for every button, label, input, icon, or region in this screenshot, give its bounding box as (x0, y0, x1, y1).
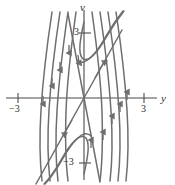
tick-label-v-positive-3: 3 (74, 26, 79, 37)
direction-arrow-group-left (43, 45, 79, 104)
tick-label-v-negative-3: −3 (63, 156, 74, 167)
horizontal-axis-label: y (161, 92, 166, 104)
tick-label-y-positive-3: 3 (141, 103, 146, 114)
direction-arrow-group-right (103, 92, 127, 140)
arrow-down-separatrix (78, 55, 79, 63)
phase-portrait-figure: v y 3 −3 −3 3 (0, 0, 175, 185)
trajectory-right-family (92, 12, 128, 181)
trajectory-r1 (92, 12, 102, 181)
vertical-axis-label: v (80, 1, 85, 13)
phase-portrait-plot (0, 0, 175, 185)
tick-label-y-negative-3: −3 (9, 103, 20, 114)
